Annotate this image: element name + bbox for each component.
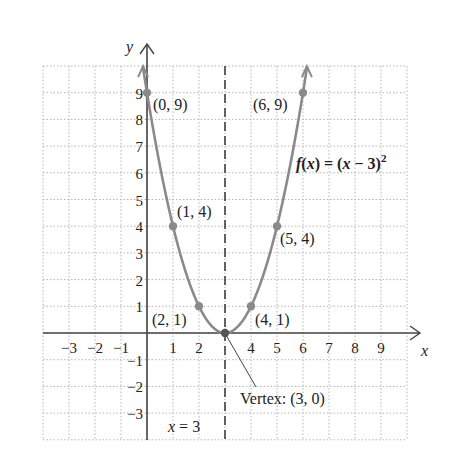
y-tick-label: 5: [136, 193, 144, 209]
data-point: [299, 89, 307, 97]
data-point: [143, 89, 151, 97]
y-tick-label: −3: [127, 406, 143, 422]
x-tick-label: 6: [299, 340, 307, 356]
y-tick-labels: 987654321−1−2−3: [127, 86, 143, 422]
x-tick-label: −3: [61, 340, 77, 356]
y-tick-label: 6: [136, 166, 144, 182]
point-label-1-4: (1, 4): [177, 203, 212, 221]
y-tick-label: 3: [136, 246, 144, 262]
data-point: [247, 302, 255, 310]
point-label-2-1: (2, 1): [152, 311, 187, 329]
x-axis-label: x: [420, 342, 428, 359]
x-tick-labels: −3−2−112456789: [61, 340, 385, 356]
point-label-5-4: (5, 4): [280, 230, 315, 248]
y-tick-label: 9: [136, 86, 144, 102]
y-tick-label: 1: [136, 299, 144, 315]
data-point: [195, 302, 203, 310]
point-label-4-1: (4, 1): [255, 311, 290, 329]
y-tick-label: 2: [136, 273, 144, 289]
y-axis-label: y: [124, 38, 134, 56]
x-tick-label: 9: [377, 340, 385, 356]
vertex-label: Vertex: (3, 0): [240, 390, 325, 408]
parabola-chart: x y −3−2−112456789 987654321−1−2−3 (0, 9…: [0, 0, 461, 472]
y-tick-label: 4: [136, 219, 144, 235]
point-label-0-9: (0, 9): [153, 96, 188, 114]
x-tick-label: 7: [325, 340, 333, 356]
data-point: [169, 222, 177, 230]
function-label: f(x) = (x − 3)2: [296, 152, 387, 173]
x-tick-label: 4: [247, 340, 255, 356]
y-tick-label: −1: [127, 353, 143, 369]
data-point: [221, 329, 229, 337]
axis-of-symmetry-label: x = 3: [167, 418, 200, 435]
axes: x y: [43, 38, 428, 440]
x-tick-label: 1: [169, 340, 177, 356]
x-tick-label: 8: [351, 340, 359, 356]
x-tick-label: 5: [273, 340, 281, 356]
y-tick-label: 7: [136, 139, 144, 155]
y-tick-label: −2: [127, 379, 143, 395]
point-label-6-9: (6, 9): [253, 96, 288, 114]
x-tick-label: 2: [195, 340, 203, 356]
y-tick-label: 8: [136, 112, 144, 128]
x-tick-label: −2: [87, 340, 103, 356]
